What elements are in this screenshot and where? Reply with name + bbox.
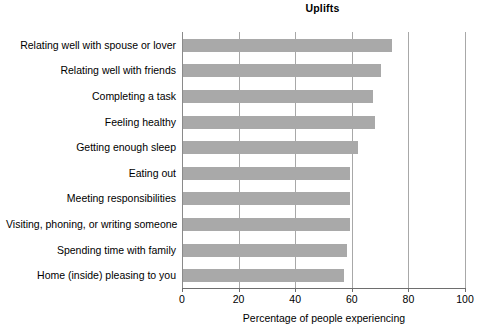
bar (183, 192, 350, 205)
x-tick-label: 60 (346, 293, 358, 305)
bar (183, 218, 350, 231)
bar (183, 116, 375, 129)
bar (183, 64, 381, 77)
x-tick-label: 20 (233, 293, 245, 305)
category-label: Getting enough sleep (6, 141, 182, 154)
gridline (408, 32, 409, 288)
x-tick-mark (239, 288, 240, 292)
x-tick-mark (352, 288, 353, 292)
bar (183, 269, 344, 282)
bar (183, 244, 347, 257)
chart-figure: Uplifts Relating well with spouse or lov… (0, 0, 486, 336)
category-label: Feeling healthy (6, 116, 182, 129)
bar (183, 90, 373, 103)
bar (183, 167, 350, 180)
x-tick-label: 40 (289, 293, 301, 305)
x-tick-mark (408, 288, 409, 292)
plot-area (182, 32, 465, 288)
category-label: Spending time with family (6, 244, 182, 257)
x-axis-title: Percentage of people experiencing (182, 312, 466, 324)
category-label: Relating well with spouse or lover (6, 39, 182, 52)
category-label: Eating out (6, 167, 182, 180)
category-label: Completing a task (6, 90, 182, 103)
x-tick-label: 80 (403, 293, 415, 305)
category-label: Meeting responsibilities (6, 192, 182, 205)
category-label: Visiting, phoning, or writing someone (6, 218, 182, 231)
x-tick-label: 100 (456, 293, 474, 305)
x-axis-line (182, 288, 466, 289)
bar (183, 39, 392, 52)
category-axis-labels: Relating well with spouse or loverRelati… (0, 32, 182, 288)
x-tick-mark (465, 288, 466, 292)
gridline (465, 32, 466, 288)
x-tick-label: 0 (179, 293, 185, 305)
category-label: Relating well with friends (6, 64, 182, 77)
x-tick-mark (295, 288, 296, 292)
chart-title: Uplifts (181, 2, 464, 14)
x-tick-mark (182, 288, 183, 292)
bar (183, 141, 358, 154)
category-label: Home (inside) pleasing to you (6, 269, 182, 282)
